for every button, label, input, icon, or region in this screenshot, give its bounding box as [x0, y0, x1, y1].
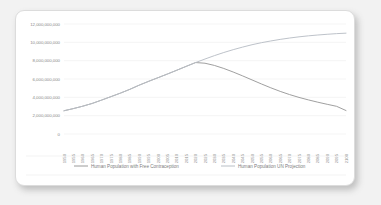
- x-axis-tick-label: 2055: [259, 153, 264, 163]
- y-axis-tick-label: 6,000,000,000: [33, 77, 61, 82]
- x-axis-tick-label: 1970: [99, 153, 104, 163]
- series-line-1: [64, 63, 346, 111]
- x-axis-tick-label: 2050: [250, 153, 255, 163]
- x-axis-tick-label: 2040: [231, 153, 236, 163]
- x-axis-tick-label: 2065: [278, 153, 283, 163]
- x-axis-tick-label: 2045: [240, 153, 245, 163]
- y-axis-tick-label: 4,000,000,000: [33, 95, 61, 100]
- x-axis-tick-label: 2010: [174, 153, 179, 163]
- y-axis-tick-label: 10,000,000,000: [30, 40, 60, 45]
- x-axis-tick-label: 1995: [146, 153, 151, 163]
- x-axis-tick-label: 2005: [165, 153, 170, 163]
- x-axis-tick-label: 2075: [297, 153, 302, 163]
- x-axis-tick-label: 2060: [268, 153, 273, 163]
- legend-label-1: Human Population with Free Contraception: [91, 164, 179, 169]
- x-axis-tick-label: 2030: [212, 153, 217, 163]
- x-axis-tick-label: 2035: [221, 153, 226, 163]
- x-axis-tick-label: 2090: [325, 153, 330, 163]
- x-axis-tick-label: 1975: [109, 153, 114, 163]
- y-axis-tick-label: 8,000,000,000: [33, 58, 61, 63]
- x-axis-tick-label: 2015: [184, 153, 189, 163]
- legend-label-2: Human Population UN Projection: [238, 164, 306, 169]
- x-axis-tick-label: 1980: [118, 153, 123, 163]
- x-axis-tick-label: 2095: [334, 153, 339, 163]
- x-axis-tick-label: 2025: [203, 153, 208, 163]
- x-axis-tick-label: 1990: [137, 153, 142, 163]
- x-axis-tick-label: 2100: [344, 153, 349, 163]
- chart-plot-area: 02,000,000,0004,000,000,0006,000,000,000…: [16, 11, 356, 187]
- population-line-chart: 02,000,000,0004,000,000,0006,000,000,000…: [16, 11, 356, 187]
- y-axis-tick-label: 0: [58, 132, 61, 137]
- x-axis-tick-label: 1965: [90, 153, 95, 163]
- x-axis-tick-label: 2000: [156, 153, 161, 163]
- y-axis-tick-label: 2,000,000,000: [33, 113, 61, 118]
- x-axis-tick-label: 1955: [71, 153, 76, 163]
- x-axis-tick-label: 2070: [287, 153, 292, 163]
- chart-card: 02,000,000,0004,000,000,0006,000,000,000…: [15, 10, 355, 186]
- x-axis-tick-label: 1950: [62, 153, 67, 163]
- x-axis-tick-label: 1960: [80, 153, 85, 163]
- x-axis-tick-label: 2020: [193, 153, 198, 163]
- x-axis-tick-label: 2085: [315, 153, 320, 163]
- y-axis-tick-label: 12,000,000,000: [30, 22, 60, 27]
- x-axis-tick-label: 2080: [306, 153, 311, 163]
- x-axis-tick-label: 1985: [127, 153, 132, 163]
